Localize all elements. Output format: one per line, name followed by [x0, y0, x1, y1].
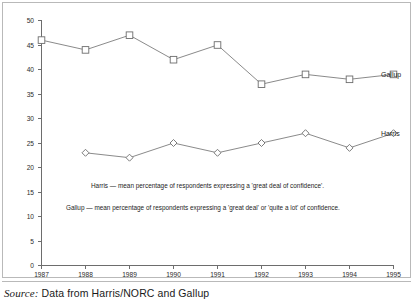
- y-tick-label-35: 35: [27, 91, 35, 98]
- x-tick-label-1989: 1989: [122, 271, 137, 278]
- y-tick-label-10: 10: [27, 213, 35, 220]
- y-tick-label-5: 5: [30, 238, 34, 245]
- series-label-harris: Harris: [381, 130, 400, 137]
- x-tick-label-1995: 1995: [386, 271, 401, 278]
- x-tick-label-1987: 1987: [34, 271, 49, 278]
- series-markers-harris: [82, 130, 397, 162]
- x-tick-label-1993: 1993: [298, 271, 313, 278]
- chart-page: 50 45 40 35 30 25 20 15 10 5 0 1987 1988…: [0, 0, 414, 308]
- series-label-gallup: Gallup: [381, 71, 401, 79]
- y-tick-label-40: 40: [27, 66, 35, 73]
- x-tick-label-1992: 1992: [254, 271, 269, 278]
- line-chart: 50 45 40 35 30 25 20 15 10 5 0 1987 1988…: [0, 0, 414, 280]
- y-tick-group: [38, 21, 42, 266]
- x-tick-label-1990: 1990: [166, 271, 181, 278]
- y-tick-label-30: 30: [27, 115, 35, 122]
- y-tick-label-45: 45: [27, 42, 35, 49]
- y-tick-label-0: 0: [30, 262, 34, 269]
- annotation-harris: Harris — mean percentage of respondents …: [91, 182, 324, 190]
- y-tick-label-15: 15: [27, 189, 35, 196]
- source-caption: Source: Data from Harris/NORC and Gallup: [4, 287, 209, 299]
- annotation-gallup: Gallup — mean percentage of respondents …: [66, 204, 340, 212]
- source-value: Data from Harris/NORC and Gallup: [42, 287, 210, 299]
- x-tick-label-1991: 1991: [210, 271, 225, 278]
- source-label: Source:: [4, 287, 39, 299]
- y-tick-label-50: 50: [27, 17, 35, 24]
- series-markers-gallup: [38, 32, 397, 88]
- source-divider: [2, 281, 411, 282]
- y-tick-label-20: 20: [27, 164, 35, 171]
- x-tick-label-1988: 1988: [78, 271, 93, 278]
- x-tick-label-1994: 1994: [342, 271, 357, 278]
- series-line-harris: [86, 133, 394, 158]
- y-tick-label-25: 25: [27, 140, 35, 147]
- x-tick-group: [42, 266, 394, 270]
